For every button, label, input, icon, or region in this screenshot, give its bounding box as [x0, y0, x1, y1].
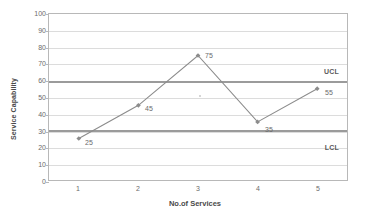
- y-axis-tick-mark: [46, 182, 49, 183]
- y-axis-tick-label: 60: [24, 77, 46, 84]
- x-axis-tick-label: 5: [303, 185, 333, 192]
- center-speck-artifact: [199, 95, 201, 97]
- y-axis-tick-label: 0: [24, 178, 46, 185]
- y-axis-tick-label: 10: [24, 161, 46, 168]
- y-axis-tick-label: 70: [24, 60, 46, 67]
- control-chart: Service Capability 100908070605040302010…: [0, 0, 365, 216]
- data-point-marker: [76, 136, 81, 141]
- data-point-label: 25: [85, 139, 93, 146]
- series-line-markers: [49, 14, 347, 180]
- y-axis-tick-label: 20: [24, 144, 46, 151]
- data-point-label: 45: [145, 105, 153, 112]
- y-axis-title-label: Service Capability: [10, 54, 17, 164]
- x-axis-tick-label: 4: [243, 185, 273, 192]
- y-axis-tick-label: 90: [24, 26, 46, 33]
- x-axis-tick-labels: 12345: [48, 185, 348, 197]
- y-axis-tick-label: 80: [24, 43, 46, 50]
- data-point-label: 35: [265, 126, 273, 133]
- data-point-label: 55: [325, 88, 333, 95]
- y-axis-tick-label: 100: [24, 10, 46, 17]
- plot-area: UCLLCL 2545753555: [48, 13, 348, 181]
- y-axis-tick-label: 50: [24, 94, 46, 101]
- series-line: [79, 56, 317, 139]
- x-axis-tick-label: 2: [123, 185, 153, 192]
- x-axis-title: No.of Services: [40, 199, 350, 208]
- y-axis-tick-label: 30: [24, 127, 46, 134]
- data-point-label: 75: [205, 52, 213, 59]
- y-axis-title: Service Capability: [10, 0, 17, 54]
- x-axis-tick-label: 1: [63, 185, 93, 192]
- data-point-marker: [315, 86, 320, 91]
- y-axis-tick-label: 40: [24, 110, 46, 117]
- x-axis-tick-label: 3: [183, 185, 213, 192]
